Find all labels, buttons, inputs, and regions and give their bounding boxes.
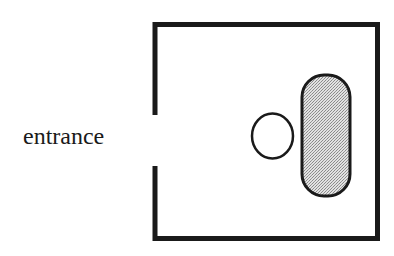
circle-object (252, 114, 293, 159)
entrance-label: entrance (23, 124, 104, 148)
shaded-capsule (302, 75, 350, 196)
